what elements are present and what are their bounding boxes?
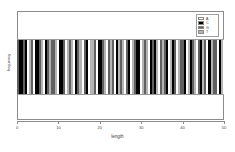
legend-item: C [198,21,217,25]
barcode-band [17,39,224,95]
legend-label: C [206,21,209,25]
legend-swatch [198,30,204,34]
x-axis-tick [224,121,225,124]
x-axis-tick-label: 20 [98,125,102,130]
legend-swatch [198,17,204,21]
legend-label: A [206,17,208,21]
x-axis-tick-label: 30 [139,125,143,130]
y-axis-title: frequency [6,43,11,83]
legend-label: G [206,26,209,30]
legend-item: A [198,17,217,21]
chart-figure: 01020304050 length frequency ACGT [0,0,235,152]
x-axis-tick [183,121,184,124]
x-axis-tick [58,121,59,124]
legend-label: T [206,30,208,34]
legend-swatch [198,21,204,25]
x-axis-tick-label: 0 [16,125,18,130]
x-axis-tick-label: 40 [180,125,184,130]
x-axis-tick [17,121,18,124]
x-axis-tick-label: 10 [56,125,60,130]
x-axis-title: length [0,134,235,140]
legend: ACGT [196,14,219,37]
x-axis-tick [141,121,142,124]
x-axis-line [17,121,224,122]
sequence-bar [223,40,224,94]
x-axis-tick-label: 50 [222,125,226,130]
legend-item: G [198,26,217,30]
legend-item: T [198,30,217,34]
legend-swatch [198,26,204,30]
x-axis-tick [100,121,101,124]
